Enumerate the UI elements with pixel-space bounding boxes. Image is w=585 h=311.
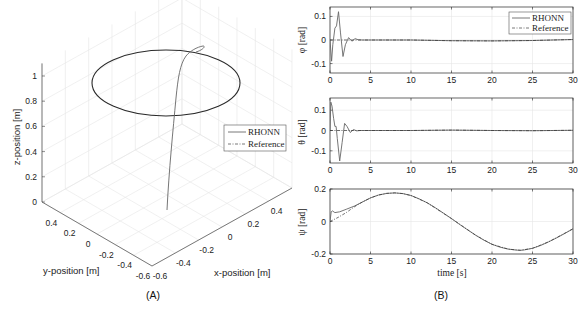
z-tick-label: 0.8 bbox=[25, 96, 37, 106]
x-tick-label: -0.2 bbox=[199, 245, 214, 255]
3d-tick-labels: 00.20.40.60.810.40.20-0.2-0.4-0.6-0.6-0.… bbox=[25, 71, 283, 281]
panel-b-time-series: 0510152025300.10-0.1 0510152025300.10-0.… bbox=[297, 7, 578, 301]
panel-a-label: (A) bbox=[146, 289, 160, 301]
x-tick-label: 20 bbox=[487, 165, 497, 175]
x-tick-label: 5 bbox=[368, 75, 373, 85]
time-axis-label: time [s] bbox=[437, 268, 466, 278]
x-tick-label: 15 bbox=[447, 75, 457, 85]
phi-axis-label: φ [rad] bbox=[297, 27, 307, 53]
y-tick-label: -0.1 bbox=[311, 59, 326, 69]
x-tick-label: 25 bbox=[528, 75, 538, 85]
x-tick-label: 0.2 bbox=[247, 219, 259, 229]
rhonn-trajectory bbox=[167, 46, 204, 210]
legend-b: RHONN Reference bbox=[509, 12, 571, 34]
z-tick-label: 0 bbox=[32, 197, 37, 207]
x-tick-label: 15 bbox=[447, 256, 457, 266]
x-tick-label: 25 bbox=[528, 165, 538, 175]
z-tick-label: 0.4 bbox=[25, 147, 37, 157]
z-tick-label: 0.2 bbox=[25, 172, 37, 182]
x-tick-label: 15 bbox=[447, 165, 457, 175]
y-tick-label: -0.1 bbox=[311, 146, 326, 156]
x-tick-label: 10 bbox=[406, 165, 416, 175]
x-tick-label: 10 bbox=[406, 75, 416, 85]
x-tick-label: 0 bbox=[328, 256, 333, 266]
y-tick-label: -0.2 bbox=[311, 249, 326, 259]
panel-b-label: (B) bbox=[434, 289, 448, 301]
legend-b-reference: Reference bbox=[532, 23, 568, 33]
y-tick-label: 0.1 bbox=[314, 11, 326, 21]
reference-trajectory bbox=[92, 50, 240, 116]
psi-axis-label: ψ [rad] bbox=[297, 209, 307, 236]
3d-axes bbox=[42, 63, 292, 266]
legend-b-rhonn: RHONN bbox=[532, 13, 565, 23]
z-tick-label: 1 bbox=[32, 71, 37, 81]
3d-trajectories bbox=[92, 46, 240, 210]
y-tick-label: 0 bbox=[321, 35, 326, 45]
x-axis-label: x-position [m] bbox=[214, 267, 271, 278]
x-tick-label: 25 bbox=[528, 256, 538, 266]
x-tick-label: 0 bbox=[328, 165, 333, 175]
x-tick-label: 5 bbox=[368, 165, 373, 175]
x-tick-label: 0 bbox=[328, 75, 333, 85]
legend-a: RHONN Reference bbox=[224, 125, 286, 151]
x-tick-label: 0 bbox=[228, 232, 233, 242]
x-tick-label: 20 bbox=[487, 256, 497, 266]
y-tick-label: 0.4 bbox=[45, 218, 57, 228]
y-tick-label: 0 bbox=[321, 126, 326, 136]
x-tick-label: -0.4 bbox=[176, 258, 191, 268]
z-tick-label: 0.6 bbox=[25, 121, 37, 131]
y-tick-label: -0.6 bbox=[136, 271, 151, 281]
y-tick-label: 0.1 bbox=[314, 105, 326, 115]
z-axis-label: z-position [m] bbox=[11, 109, 22, 166]
x-tick-label: 20 bbox=[487, 75, 497, 85]
y-tick-label: -0.2 bbox=[99, 250, 114, 260]
x-tick-label: 10 bbox=[406, 256, 416, 266]
y-tick-label: 0 bbox=[321, 217, 326, 227]
x-tick-label: 30 bbox=[568, 75, 578, 85]
x-tick-label: 5 bbox=[368, 256, 373, 266]
y-tick-label: 0.2 bbox=[64, 228, 76, 238]
x-tick-label: 30 bbox=[568, 165, 578, 175]
figure: 00.20.40.60.810.40.20-0.2-0.4-0.6-0.6-0.… bbox=[0, 0, 585, 311]
theta-axis-label: θ [rad] bbox=[297, 119, 307, 144]
legend-a-rhonn: RHONN bbox=[248, 127, 281, 137]
subplot-theta: 0510152025300.10-0.1 bbox=[311, 98, 578, 175]
subplot-psi: 0510152025300.20-0.2 bbox=[311, 184, 578, 266]
y-tick-label: 0 bbox=[86, 239, 91, 249]
panel-a-3d-plot: 00.20.40.60.810.40.20-0.2-0.4-0.6-0.6-0.… bbox=[11, 0, 292, 301]
legend-a-reference: Reference bbox=[248, 139, 284, 149]
x-tick-label: 30 bbox=[568, 256, 578, 266]
x-tick-label: -0.6 bbox=[153, 271, 168, 281]
y-tick-label: 0.2 bbox=[314, 184, 326, 194]
y-tick-label: -0.4 bbox=[117, 260, 132, 270]
x-tick-label: 0.4 bbox=[271, 206, 283, 216]
y-axis-label: y-position [m] bbox=[43, 265, 100, 276]
